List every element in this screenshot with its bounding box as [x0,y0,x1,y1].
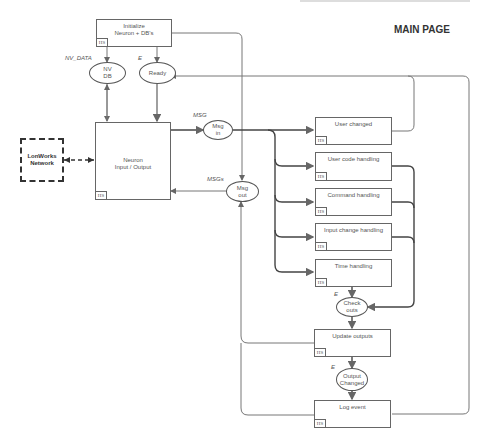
nv-data-tag: NV_DATA [65,55,92,61]
hs-tag: HS [316,136,327,144]
user-code-handling-label: User code handling [316,156,391,163]
command-handling-box[interactable]: Command handling HS [315,188,392,216]
user-code-handling-box[interactable]: User code handling HS [315,152,392,181]
user-changed-label: User changed [316,121,391,128]
update-outputs-label: Update outputs [315,333,390,340]
msg-in-ellipse[interactable]: Msg in [203,120,233,140]
ready-ellipse[interactable]: Ready [139,62,176,84]
hs-tag: HS [316,172,327,180]
time-handling-label: Time handling [316,263,391,270]
connector-lines [0,0,486,444]
msg-out-ellipse[interactable]: Msg out [226,181,259,202]
output-changed-event-tag: E [331,364,335,370]
check-outs-event-tag: E [334,291,338,297]
msg-tag: MSG [193,112,207,118]
log-event-label: Log event [315,404,390,411]
update-outputs-box[interactable]: Update outputs HS [314,329,391,357]
msgs-tag: MSGs [207,176,224,182]
time-handling-box[interactable]: Time handling HS [315,259,392,287]
initialize-box[interactable]: Initialize Neuron + DB's HS [96,19,172,47]
ready-event-tag: E [138,55,142,61]
page-title: MAIN PAGE [394,24,450,35]
hs-tag: HS [96,191,107,199]
input-change-handling-box[interactable]: Input change handling HS [315,223,392,251]
initialize-label: Initialize Neuron + DB's [97,23,171,37]
log-event-box[interactable]: Log event HS [314,400,391,428]
hs-tag: HS [97,38,108,46]
user-changed-box[interactable]: User changed HS [315,117,392,145]
neuron-io-label: Neuron Input / Output [96,157,170,171]
hs-tag: HS [315,348,326,356]
lonworks-network: LonWorks Network [20,138,64,182]
hs-tag: HS [316,242,327,250]
hs-tag: HS [316,278,327,286]
neuron-io-box[interactable]: Neuron Input / Output HS [95,122,171,200]
hs-tag: HS [315,419,326,427]
input-change-handling-label: Input change handling [316,227,391,234]
command-handling-label: Command handling [316,192,391,199]
check-outs-ellipse[interactable]: Check outs [336,297,368,317]
hs-tag: HS [316,207,327,215]
nv-db-ellipse[interactable]: NV DB [89,62,126,84]
output-changed-ellipse[interactable]: Output Changed [336,368,368,391]
